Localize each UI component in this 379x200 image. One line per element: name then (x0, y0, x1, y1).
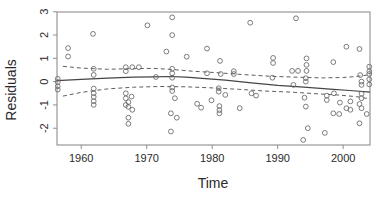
data-point (91, 73, 96, 78)
data-point (199, 105, 204, 110)
data-point (271, 56, 276, 61)
data-point (237, 106, 242, 111)
data-point (367, 82, 372, 87)
y-tick-label: -1 (38, 100, 50, 110)
data-point (270, 75, 275, 80)
residuals-vs-time-plot: 19601970198019902000-2-10123 Time Residu… (0, 0, 379, 200)
data-point (359, 83, 364, 88)
data-point (55, 87, 60, 92)
data-point (209, 98, 214, 103)
data-point (303, 79, 308, 84)
data-point (358, 73, 363, 78)
data-point (123, 91, 128, 96)
confidence-upper-line (63, 66, 370, 78)
data-point (137, 65, 142, 70)
data-point (130, 107, 135, 112)
x-tick-label: 1960 (69, 152, 93, 164)
y-tick-label: 1 (38, 55, 50, 61)
data-point (170, 15, 175, 20)
data-point (205, 71, 210, 76)
data-point (216, 89, 221, 94)
x-tick-label: 1980 (200, 152, 224, 164)
data-point (357, 121, 362, 126)
data-point (301, 138, 306, 143)
data-point (218, 72, 223, 77)
x-tick-label: 2000 (331, 152, 355, 164)
data-point (170, 33, 175, 38)
data-point (304, 56, 309, 61)
data-point (294, 16, 299, 21)
data-point (249, 91, 254, 96)
data-point (290, 69, 295, 74)
data-point (130, 65, 135, 70)
data-point (303, 104, 308, 109)
x-tick-label: 1970 (134, 152, 158, 164)
y-tick-label: 2 (38, 32, 50, 38)
y-tick-label: 3 (38, 9, 50, 15)
data-point (337, 112, 342, 117)
x-axis-title: Time (198, 175, 229, 191)
x-tick-label: 1990 (265, 152, 289, 164)
smooth-fit-line (57, 77, 370, 93)
data-point (344, 44, 349, 49)
chart-layer: 19601970198019902000-2-10123 (38, 9, 372, 164)
data-point (195, 101, 200, 106)
data-point (218, 59, 223, 64)
data-point (164, 49, 169, 54)
data-point (331, 111, 336, 116)
data-point (126, 115, 131, 120)
data-point (359, 106, 364, 111)
data-point (304, 63, 309, 68)
data-point (271, 61, 276, 66)
data-point (248, 20, 253, 25)
data-point (66, 46, 71, 51)
data-point (254, 93, 259, 98)
data-point (296, 69, 301, 74)
data-point (126, 121, 131, 126)
y-axis-title: Residuals (3, 59, 19, 120)
data-point (173, 96, 178, 101)
data-point (331, 60, 336, 65)
data-point (332, 91, 337, 96)
data-point (223, 93, 228, 98)
data-point (184, 54, 189, 59)
data-point (322, 131, 327, 136)
data-point (129, 94, 134, 99)
plot-canvas: 19601970198019902000-2-10123 Time Residu… (0, 0, 379, 200)
data-point (305, 126, 310, 131)
data-point (357, 47, 362, 52)
data-point (205, 46, 210, 51)
data-point (364, 112, 369, 117)
data-point (170, 89, 175, 94)
data-point (169, 111, 174, 116)
data-point (367, 77, 372, 82)
y-tick-label: -2 (38, 123, 50, 133)
data-point (302, 95, 307, 100)
y-tick-label: 0 (38, 79, 50, 85)
data-point (169, 129, 174, 134)
data-point (91, 32, 96, 37)
data-point (217, 111, 222, 116)
data-point (304, 69, 309, 74)
data-point (66, 54, 71, 59)
data-point (338, 100, 343, 105)
data-point (174, 115, 179, 120)
data-point (145, 23, 150, 28)
data-point (348, 99, 353, 104)
